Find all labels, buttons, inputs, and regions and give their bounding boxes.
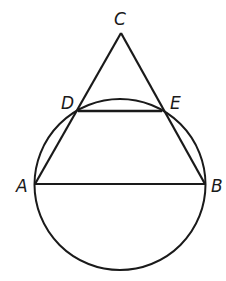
geometry-diagram: C D E A B: [0, 0, 226, 281]
segment-bc: [121, 33, 205, 184]
label-b: B: [211, 176, 223, 196]
label-e: E: [170, 93, 181, 113]
label-c: C: [114, 9, 126, 29]
segment-ac: [35, 33, 121, 184]
label-d: D: [61, 93, 74, 113]
label-a: A: [15, 176, 28, 196]
